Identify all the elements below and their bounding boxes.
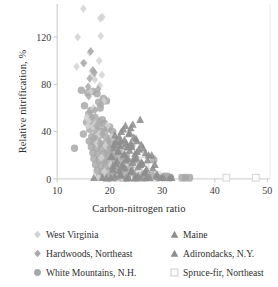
triangle-marker-icon <box>170 249 179 258</box>
legend-item-white-mountains-n-h[interactable]: White Mountains, N.H. <box>33 268 136 278</box>
circle-marker-icon <box>33 268 42 277</box>
x-tick-label: 40 <box>210 185 220 196</box>
square-open-marker-icon <box>170 268 179 277</box>
data-point <box>80 130 87 137</box>
x-axis-title: Carbon-nitrogen ratio <box>0 203 278 214</box>
legend-item-maine[interactable]: Maine <box>170 230 208 240</box>
y-axis-title: Relative nitrification, % <box>17 22 28 182</box>
data-point <box>223 174 230 181</box>
data-point <box>80 5 87 13</box>
data-point <box>186 174 193 181</box>
legend-item-label: Adirondacks, N.Y. <box>183 249 254 259</box>
data-point <box>129 120 137 127</box>
x-tick-label: 10 <box>52 185 62 196</box>
data-point <box>81 102 88 109</box>
x-tick-label: 50 <box>262 185 272 196</box>
x-tick-label: 20 <box>105 185 115 196</box>
chart-legend: West VirginiaMaineHardwoods, NortheastAd… <box>0 228 278 287</box>
data-point <box>252 174 259 181</box>
legend-item-west-virginia[interactable]: West Virginia <box>33 230 98 240</box>
data-point <box>136 116 144 123</box>
data-point <box>73 62 80 70</box>
data-point <box>78 87 85 94</box>
scatter-chart-figure: 040801201020304050 Relative nitrificatio… <box>0 0 278 287</box>
diamond-marker-icon <box>33 230 42 239</box>
plot-region: 040801201020304050 Relative nitrificatio… <box>0 0 278 212</box>
x-tick-label: 30 <box>157 185 167 196</box>
data-point <box>80 59 87 67</box>
legend-item-label: Maine <box>183 230 208 240</box>
data-point <box>97 32 104 40</box>
triangle-marker-icon <box>170 230 179 239</box>
legend-item-label: Hardwoods, Northeast <box>46 249 132 259</box>
legend-item-spruce-fir-northeast[interactable]: Spruce-fir, Northeast <box>170 268 264 278</box>
data-point <box>99 71 106 79</box>
data-point <box>179 174 186 181</box>
legend-item-label: Spruce-fir, Northeast <box>183 268 264 278</box>
y-tick-label: 40 <box>41 126 51 137</box>
legend-item-label: West Virginia <box>46 230 98 240</box>
legend-item-hardwoods-northeast[interactable]: Hardwoods, Northeast <box>33 249 132 259</box>
data-point <box>71 144 78 151</box>
y-tick-label: 80 <box>41 79 51 90</box>
y-tick-label: 120 <box>36 32 51 43</box>
legend-item-adirondacks-n-y[interactable]: Adirondacks, N.Y. <box>170 249 254 259</box>
data-point <box>96 57 103 65</box>
y-tick-label: 0 <box>46 174 51 185</box>
legend-item-label: White Mountains, N.H. <box>46 268 136 278</box>
plot-svg: 040801201020304050 <box>0 0 278 212</box>
data-point <box>74 33 81 41</box>
diamond-marker-icon <box>33 249 42 258</box>
